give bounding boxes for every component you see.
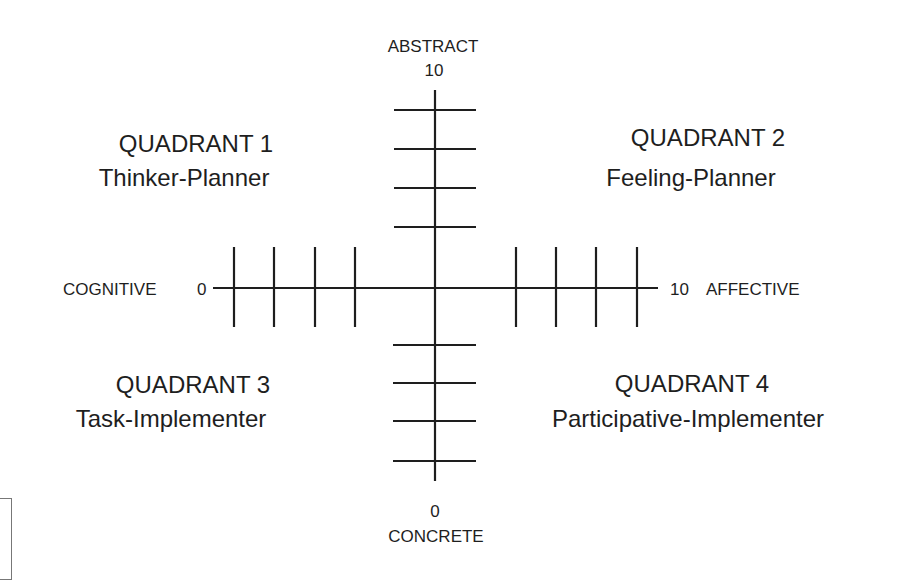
- quadrant-2-title: QUADRANT 2: [631, 126, 785, 150]
- quadrant-3-subtitle: Task-Implementer: [76, 407, 267, 431]
- concrete-value: 0: [430, 503, 439, 520]
- partial-frame-edge: [0, 498, 12, 580]
- abstract-value: 10: [425, 62, 444, 79]
- affective-label: AFFECTIVE: [706, 281, 800, 298]
- quadrant-4-subtitle: Participative-Implementer: [552, 407, 824, 431]
- quadrant-2-subtitle: Feeling-Planner: [606, 166, 775, 190]
- cognitive-label: COGNITIVE: [63, 281, 157, 298]
- quadrant-1-subtitle: Thinker-Planner: [99, 166, 270, 190]
- quadrant-3-title: QUADRANT 3: [116, 373, 270, 397]
- concrete-label: CONCRETE: [388, 528, 483, 545]
- affective-value: 10: [670, 281, 689, 298]
- cognitive-value: 0: [197, 281, 206, 298]
- quadrant-4-title: QUADRANT 4: [615, 372, 769, 396]
- abstract-label: ABSTRACT: [388, 38, 479, 55]
- quadrant-1-title: QUADRANT 1: [119, 132, 273, 156]
